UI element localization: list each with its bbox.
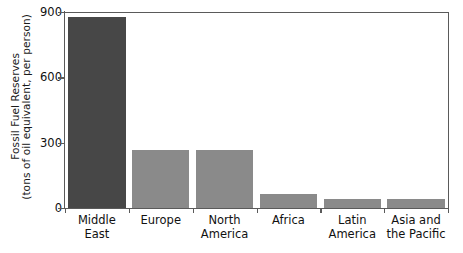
y-axis-tick-labels: 0300600900 (36, 0, 62, 213)
bar[interactable] (132, 150, 189, 208)
y-axis-title: Fossil Fuel Reserves (tons of oil equiva… (0, 0, 40, 213)
x-axis-tick-mark (257, 208, 258, 213)
x-axis-tick-label: Africa (257, 214, 321, 228)
x-axis-tick-label-line: Middle East (65, 214, 129, 241)
x-axis-tick-label: Europe (129, 214, 193, 228)
x-axis-tick-label-line: Latin (320, 214, 384, 228)
x-axis-tick-label: Middle East (65, 214, 129, 241)
x-axis-tick-labels: Middle EastEuropeNorthAmericaAfricaLatin… (65, 214, 448, 253)
bar-chart: Fossil Fuel Reserves (tons of oil equiva… (0, 0, 463, 253)
x-axis-tick-mark (448, 208, 449, 213)
bar[interactable] (387, 199, 444, 208)
bar[interactable] (196, 150, 253, 208)
x-axis-tick-label-line: Asia and (384, 214, 448, 228)
x-axis-tick-label-line: America (193, 228, 257, 242)
y-axis-title-line-2: (tons of oil equivalent, per person) (21, 14, 32, 200)
x-axis-tick-mark (65, 208, 66, 213)
x-axis-tick-mark (384, 208, 385, 213)
y-axis-title-line-1: Fossil Fuel Reserves (10, 53, 21, 160)
x-axis-tick-label: Asia andthe Pacific (384, 214, 448, 241)
x-axis-tick-mark (193, 208, 194, 213)
x-axis-tick-label-line: America (320, 228, 384, 242)
bar[interactable] (324, 199, 381, 208)
x-axis-tick-label-line: Europe (129, 214, 193, 228)
x-axis-tick-label-line: North (193, 214, 257, 228)
bar[interactable] (68, 17, 125, 208)
x-axis-tick-label: LatinAmerica (320, 214, 384, 241)
x-axis-tick-mark (320, 208, 321, 213)
x-axis-tick-mark (129, 208, 130, 213)
x-axis-tick-label-line: Africa (257, 214, 321, 228)
bar[interactable] (260, 194, 317, 208)
x-axis-tick-label-line: the Pacific (384, 228, 448, 242)
x-axis-tick-label: NorthAmerica (193, 214, 257, 241)
bar-series (65, 12, 448, 208)
